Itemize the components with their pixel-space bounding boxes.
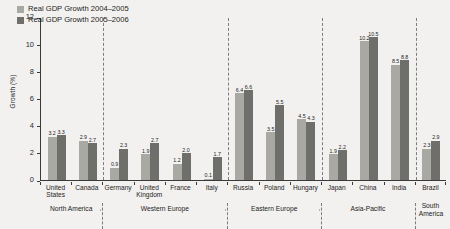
x-axis-tick-mark	[165, 182, 166, 185]
x-axis-label: Japan	[321, 184, 352, 191]
bar-column: 2.3	[119, 149, 128, 180]
bar-value-label: 8.5	[392, 58, 399, 64]
x-axis-label: Italy	[196, 184, 227, 191]
bar-value-label: 1.7	[214, 151, 221, 157]
x-axis-label-line: India	[384, 184, 415, 191]
bar	[400, 60, 409, 180]
bar-column: 1.7	[213, 157, 222, 180]
bar-value-label: 4.3	[307, 115, 314, 121]
bar-value-label: 2.9	[432, 134, 439, 140]
y-axis-tick-label: 0	[0, 176, 34, 184]
region-label-line: South	[419, 202, 442, 210]
bar-group: 6.46.6	[228, 90, 259, 180]
x-axis-tick-mark	[227, 182, 228, 185]
bar	[79, 141, 88, 180]
bar-group: 0.11.7	[197, 157, 228, 180]
bar	[338, 150, 347, 180]
x-axis-label-line: Russia	[227, 184, 258, 191]
bar-value-label: 2.7	[89, 137, 96, 143]
bar-group: 1.22.0	[166, 153, 197, 180]
bar	[150, 143, 159, 180]
bar	[275, 105, 284, 180]
bar-value-label: 8.8	[401, 54, 408, 60]
bar-column: 4.5	[297, 119, 306, 180]
x-axis-label: Canada	[71, 184, 102, 191]
region-group: North America	[42, 203, 100, 229]
bar-value-label: 2.0	[182, 147, 189, 153]
group-separator	[322, 18, 323, 180]
x-axis-label: Russia	[227, 184, 258, 191]
bar-value-label: 6.6	[245, 84, 252, 90]
group-separator	[228, 18, 229, 180]
bar	[88, 143, 97, 180]
bar-column: 2.9	[431, 141, 440, 180]
x-axis-tick-mark	[71, 182, 72, 185]
bar-column: 8.5	[391, 65, 400, 180]
region-group: SouthAmerica	[417, 203, 444, 229]
x-axis-label: UnitedStates	[40, 184, 71, 199]
bar-column: 6.6	[244, 90, 253, 180]
region-separator	[321, 203, 322, 229]
bar-value-label: 2.3	[423, 142, 430, 148]
bar	[369, 37, 378, 180]
bar-group: 4.54.3	[291, 119, 322, 180]
x-axis-label-line: Canada	[71, 184, 102, 191]
y-axis-ticks: 024681012	[0, 18, 40, 181]
bar	[244, 90, 253, 180]
bar	[329, 154, 338, 180]
bar-column: 2.9	[79, 141, 88, 180]
region-separator	[415, 203, 416, 229]
x-axis-tick-mark	[290, 182, 291, 185]
x-axis-label: Germany	[102, 184, 133, 191]
y-axis-tick-label: 10	[0, 41, 34, 49]
y-axis-tick-label: 6	[0, 95, 34, 103]
bar	[297, 119, 306, 180]
bar-value-label: 0.9	[111, 161, 118, 167]
region-separator	[227, 203, 228, 229]
bar	[422, 149, 431, 180]
bar-group: 1.92.7	[135, 143, 166, 180]
legend-item: Real GDP Growth 2005–2006	[17, 15, 129, 25]
bar	[431, 141, 440, 180]
x-axis-tick-mark	[415, 182, 416, 185]
bar	[141, 154, 150, 180]
y-axis-tick-label: 4	[0, 122, 34, 130]
bar-value-label: 4.5	[298, 113, 305, 119]
bar-group: 8.58.8	[385, 60, 416, 180]
x-axis-label-line: Italy	[196, 184, 227, 191]
bar-column: 3.3	[57, 135, 66, 180]
bar	[204, 179, 213, 180]
x-axis-label-line: United	[134, 184, 165, 191]
bar-value-label: 2.3	[120, 142, 127, 148]
x-axis-label: UnitedKingdom	[134, 184, 165, 199]
region-group: Eastern Europe	[229, 203, 319, 229]
bar-column: 3.5	[266, 132, 275, 180]
legend-swatch-icon	[17, 17, 24, 24]
region-group: Western Europe	[104, 203, 225, 229]
x-axis-tick-mark	[321, 182, 322, 185]
bar-group: 2.92.7	[72, 141, 103, 180]
bar	[119, 149, 128, 180]
legend-item: Real GDP Growth 2004–2005	[17, 4, 129, 14]
region-label: Asia-Pacific	[323, 205, 413, 213]
bar-group: 3.55.5	[260, 105, 291, 180]
bar-column: 0.9	[110, 168, 119, 180]
x-axis-label: China	[352, 184, 383, 191]
bar-value-label: 2.2	[338, 144, 345, 150]
gdp-growth-bar-chart: Growth (%) 024681012 Real GDP Growth 200…	[0, 0, 450, 229]
bar-group: 3.23.3	[41, 135, 72, 180]
x-axis-label: Hungary	[290, 184, 321, 191]
bar-column: 2.0	[182, 153, 191, 180]
bar-column: 4.3	[306, 122, 315, 180]
x-axis-label-line: Japan	[321, 184, 352, 191]
bar-column: 1.2	[173, 164, 182, 180]
bar-group: 0.92.3	[103, 149, 134, 180]
x-axis-tick-mark	[445, 182, 446, 185]
x-axis-label-line: China	[352, 184, 383, 191]
x-axis-label: Poland	[259, 184, 290, 191]
chart-legend: Real GDP Growth 2004–2005Real GDP Growth…	[17, 4, 129, 26]
x-axis-tick-mark	[134, 182, 135, 185]
group-separator	[103, 18, 104, 180]
x-axis-tick-mark	[196, 182, 197, 185]
x-axis-label-line: Poland	[259, 184, 290, 191]
